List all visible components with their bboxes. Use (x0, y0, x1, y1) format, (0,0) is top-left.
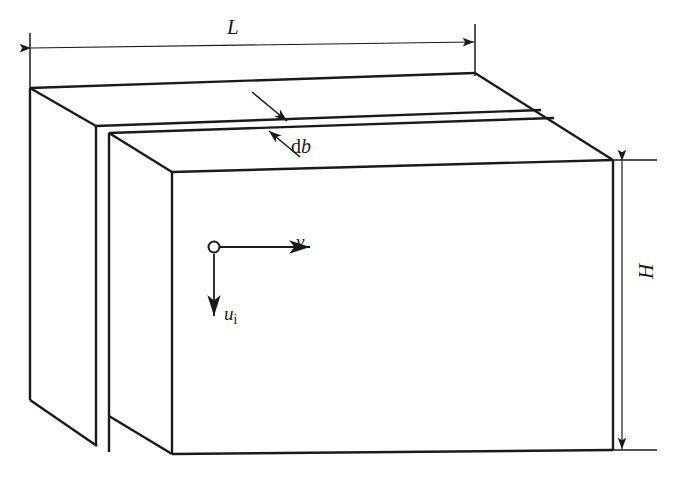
dimension-label-length: L (227, 17, 239, 38)
db-top-edge-upper (96, 110, 541, 126)
front-top-left-slant (109, 133, 172, 172)
db-top-edge-lower (109, 118, 554, 133)
db-leader-upper-arrow (252, 92, 287, 121)
front-face-bottom-edge (172, 450, 613, 454)
block-diagram-svg (0, 0, 677, 485)
annotation-label-db: db (291, 136, 311, 156)
front-bottom-left-slant (109, 452, 172, 454)
lower-left-slant-edge (109, 416, 172, 454)
db-d-glyph: d (291, 135, 301, 157)
rear-bottom-left-edge (30, 400, 97, 446)
L-dimension-line (31, 42, 474, 48)
db-b-glyph: b (301, 135, 311, 157)
dimension-label-height: H (636, 264, 657, 279)
ui-subscript-glyph: i (234, 312, 238, 327)
ui-u-glyph: u (224, 303, 234, 324)
rear-top-edge (30, 73, 475, 88)
figure-caption (0, 470, 677, 485)
dimension-H (607, 160, 657, 450)
velocity-label-v: v (296, 232, 304, 251)
front-top-right-slant (475, 73, 613, 160)
front-face-top-edge (172, 160, 613, 172)
figure-root: L H db v ui (0, 0, 677, 485)
velocity-origin-marker (209, 242, 220, 253)
rear-top-left-slant (30, 88, 96, 126)
velocity-label-ui: ui (224, 304, 237, 327)
db-thin-slab (96, 110, 554, 452)
